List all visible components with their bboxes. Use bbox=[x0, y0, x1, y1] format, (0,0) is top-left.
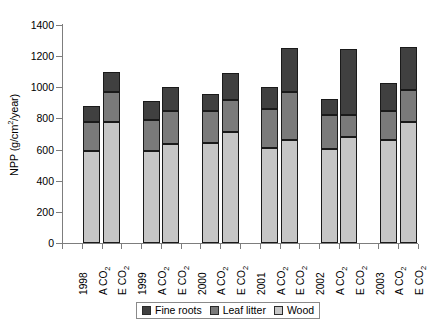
x-tick-label-text: E CO bbox=[414, 270, 425, 295]
x-tick-label-subscript: 2 bbox=[122, 266, 131, 270]
x-tick-label-subscript: 2 bbox=[419, 266, 428, 270]
legend-swatch-icon bbox=[210, 306, 219, 315]
bar-stack bbox=[222, 25, 239, 243]
x-tick-label-subscript: 2 bbox=[103, 266, 112, 270]
x-tick-label-treatment: E CO2 bbox=[355, 283, 370, 295]
bar-segment-fine-roots bbox=[222, 73, 239, 99]
x-tick-label-treatment: E CO2 bbox=[236, 283, 251, 295]
x-tick-label-year: 2000 bbox=[197, 283, 208, 295]
legend-item: Fine roots bbox=[142, 305, 202, 316]
bar-segment-fine-roots bbox=[400, 47, 417, 91]
x-tick-label-subscript: 2 bbox=[300, 266, 309, 270]
x-tick-label-subscript: 2 bbox=[182, 266, 191, 270]
x-tick-label-treatment: A CO2 bbox=[276, 283, 291, 295]
bar-segment-leaf-litter bbox=[222, 100, 239, 133]
x-tick-label-subscript: 2 bbox=[340, 266, 349, 270]
bar-segment-leaf-litter bbox=[380, 111, 397, 141]
bar-stack bbox=[83, 25, 100, 243]
y-tick-label: 1200 bbox=[12, 51, 54, 61]
x-tick-label-text: E CO bbox=[177, 270, 188, 295]
x-tick-label-text: E CO bbox=[117, 270, 128, 295]
x-tick-label-treatment: A CO2 bbox=[216, 283, 231, 295]
legend-item: Wood bbox=[274, 305, 314, 316]
bar-segment-leaf-litter bbox=[83, 122, 100, 152]
x-tick-label-year: 1999 bbox=[137, 283, 148, 295]
bar-segment-leaf-litter bbox=[103, 92, 120, 122]
bar-stack bbox=[281, 25, 298, 243]
y-tick-label: 1400 bbox=[12, 20, 54, 30]
x-tick-label-text: E CO bbox=[355, 270, 366, 295]
x-tick-label-subscript: 2 bbox=[399, 266, 408, 270]
bar-stack bbox=[340, 25, 357, 243]
bar-segment-leaf-litter bbox=[400, 90, 417, 122]
bar-segment-wood bbox=[103, 122, 120, 243]
x-tick-label-year: 1998 bbox=[78, 283, 89, 295]
bar-segment-wood bbox=[202, 143, 219, 243]
y-tick-label: 800 bbox=[12, 113, 54, 123]
x-tick-label-treatment: A CO2 bbox=[98, 283, 113, 295]
bar-stack bbox=[103, 25, 120, 243]
x-tick-label-subscript: 2 bbox=[281, 266, 290, 270]
bar-segment-wood bbox=[261, 148, 278, 243]
x-tick-label-text: A CO bbox=[216, 271, 227, 295]
bar-segment-leaf-litter bbox=[202, 111, 219, 143]
bar-segment-fine-roots bbox=[380, 83, 397, 111]
x-tick-label-group: 1998A CO2E CO21999A CO2E CO22000A CO2E C… bbox=[62, 249, 418, 297]
x-tick-label-year: 2003 bbox=[375, 283, 386, 295]
x-tick-mark bbox=[418, 244, 419, 249]
x-tick-label-treatment: E CO2 bbox=[117, 283, 132, 295]
x-tick-label-subscript: 2 bbox=[241, 266, 250, 270]
bar-segment-leaf-litter bbox=[340, 115, 357, 137]
y-tick-label: 0 bbox=[12, 238, 54, 248]
bar-stack bbox=[162, 25, 179, 243]
bar-segment-fine-roots bbox=[321, 99, 338, 115]
legend-label: Fine roots bbox=[155, 305, 202, 316]
bar-segment-fine-roots bbox=[143, 101, 160, 120]
x-tick-label-subscript: 2 bbox=[360, 266, 369, 270]
legend-swatch-icon bbox=[274, 306, 283, 315]
y-tick-label: 1000 bbox=[12, 82, 54, 92]
x-tick-label-text: E CO bbox=[295, 270, 306, 295]
legend-label: Wood bbox=[287, 305, 314, 316]
bar-segment-wood bbox=[380, 140, 397, 243]
bar-segment-leaf-litter bbox=[143, 120, 160, 151]
bars-layer bbox=[62, 25, 418, 243]
bar-segment-wood bbox=[321, 149, 338, 243]
legend-label: Leaf litter bbox=[223, 305, 266, 316]
bar-segment-wood bbox=[281, 140, 298, 243]
bar-segment-fine-roots bbox=[281, 48, 298, 92]
bar-segment-fine-roots bbox=[162, 87, 179, 110]
bar-segment-leaf-litter bbox=[261, 109, 278, 148]
bar-segment-fine-roots bbox=[83, 106, 100, 122]
bar-stack bbox=[321, 25, 338, 243]
x-tick-label-subscript: 2 bbox=[162, 266, 171, 270]
x-tick-label-subscript: 2 bbox=[221, 266, 230, 270]
chart-legend: Fine rootsLeaf litterWood bbox=[136, 302, 320, 319]
x-tick-label-treatment: E CO2 bbox=[295, 283, 310, 295]
bar-stack bbox=[202, 25, 219, 243]
bar-stack bbox=[380, 25, 397, 243]
bar-segment-leaf-litter bbox=[162, 111, 179, 144]
x-tick-label-treatment: A CO2 bbox=[335, 283, 350, 295]
bar-segment-wood bbox=[162, 144, 179, 243]
bar-segment-fine-roots bbox=[340, 49, 357, 115]
bar-segment-wood bbox=[340, 137, 357, 243]
bar-segment-wood bbox=[400, 122, 417, 243]
y-tick-label: 200 bbox=[12, 207, 54, 217]
x-tick-label-treatment: A CO2 bbox=[394, 283, 409, 295]
legend-swatch-icon bbox=[142, 306, 151, 315]
bar-segment-wood bbox=[143, 151, 160, 243]
x-tick-label-treatment: E CO2 bbox=[177, 283, 192, 295]
x-tick-label-text: A CO bbox=[98, 271, 109, 295]
x-tick-label-treatment: A CO2 bbox=[157, 283, 172, 295]
bar-segment-leaf-litter bbox=[321, 115, 338, 148]
bar-segment-fine-roots bbox=[103, 72, 120, 92]
y-tick-label-group: 1400120010008006004002000 bbox=[12, 0, 54, 326]
bar-segment-leaf-litter bbox=[281, 92, 298, 140]
bar-stack bbox=[400, 25, 417, 243]
x-tick-label-year: 2002 bbox=[315, 283, 326, 295]
x-tick-label-text: E CO bbox=[236, 270, 247, 295]
bar-segment-fine-roots bbox=[202, 94, 219, 110]
bar-stack bbox=[143, 25, 160, 243]
